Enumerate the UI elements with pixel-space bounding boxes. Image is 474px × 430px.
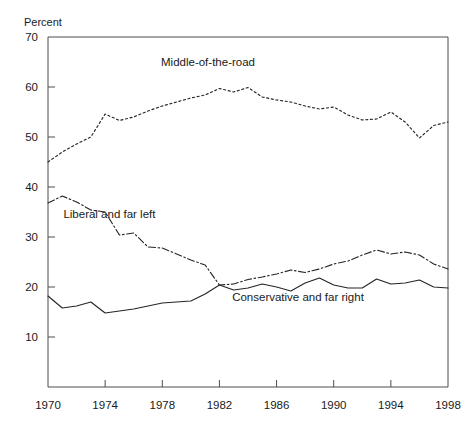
y-axis-tick-label: 50 — [25, 131, 38, 143]
y-axis-title: Percent — [24, 16, 62, 28]
x-axis-tick-label: 1974 — [92, 399, 118, 411]
y-axis-tick-label: 10 — [25, 331, 38, 343]
line-chart: Percent 70605040302010 19701974197819821… — [0, 0, 474, 430]
y-axis-tick-label: 20 — [25, 281, 38, 293]
x-axis-tick-labels: 19701974197819821986199019941998 — [35, 399, 461, 411]
series-label-liberal-and-far-left: Liberal and far left — [63, 208, 156, 220]
y-axis-tick-labels: 70605040302010 — [25, 31, 38, 343]
x-axis-tick-label: 1970 — [35, 399, 61, 411]
x-axis-tick-label: 1998 — [435, 399, 461, 411]
x-axis-tick-label: 1994 — [378, 399, 404, 411]
x-axis-tick-label: 1982 — [207, 399, 233, 411]
y-axis-tick-label: 30 — [25, 231, 38, 243]
series-label-middle-of-the-road: Middle-of-the-road — [161, 56, 255, 68]
series-line-middle-of-the-road — [48, 88, 448, 163]
y-axis-tick-label: 40 — [25, 181, 38, 193]
y-axis-tick-label: 60 — [25, 81, 38, 93]
data-series-group — [48, 88, 448, 314]
chart-figure: Percent 70605040302010 19701974197819821… — [0, 0, 474, 430]
series-label-conservative-and-far-right: Conservative and far right — [232, 291, 364, 303]
x-axis-tick-label: 1990 — [321, 399, 347, 411]
series-annotations: Middle-of-the-roadLiberal and far leftCo… — [63, 56, 364, 303]
axis-tick-marks — [48, 87, 391, 387]
x-axis-tick-label: 1986 — [264, 399, 290, 411]
x-axis-tick-label: 1978 — [149, 399, 175, 411]
y-axis-tick-label: 70 — [25, 31, 38, 43]
y-axis-title-label: Percent — [24, 16, 62, 28]
